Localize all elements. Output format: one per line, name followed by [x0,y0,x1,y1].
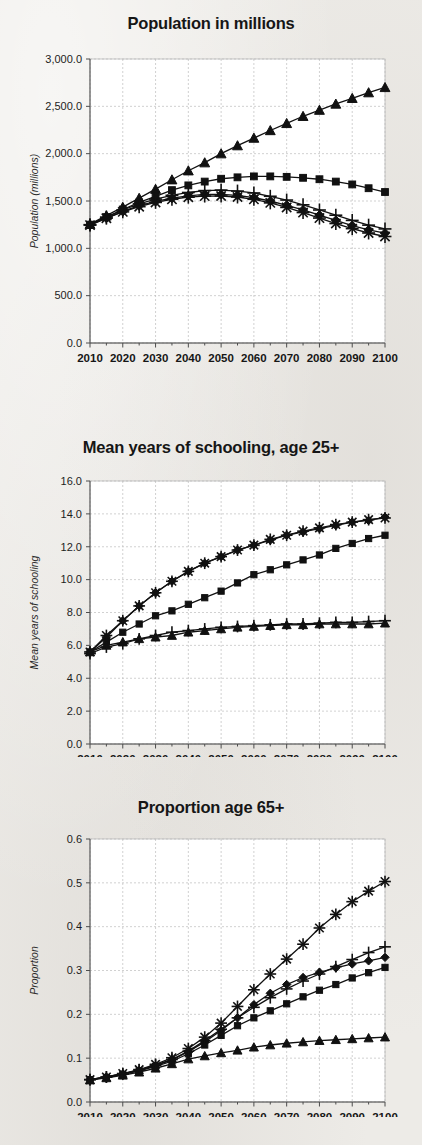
y-tick-label: 8.0 [67,606,82,618]
y-tick-label: 1,500.0 [45,195,82,207]
x-tick-label: 2070 [274,753,300,757]
x-tick-label: 2040 [176,1111,202,1117]
x-tick-label: 2080 [307,753,333,757]
x-tick-label: 2040 [176,753,202,757]
x-tick-label: 2090 [339,1111,365,1117]
y-tick-label: 0.0 [67,738,82,750]
marker-square [218,588,224,594]
marker-square [349,540,355,546]
marker-square [365,185,372,192]
marker-square [283,173,290,180]
plot-area-population: 0.0500.01,000.01,500.02,000.02,500.03,00… [0,33,422,378]
marker-square [120,629,126,635]
y-tick-label: 0.2 [67,1008,82,1020]
x-tick-label: 2010 [77,1111,103,1117]
x-tick-label: 2060 [241,352,267,364]
plot-area-proportion: 0.00.10.20.30.40.50.62010202020302040205… [0,817,422,1117]
marker-square [185,601,191,607]
x-tick-label: 2100 [372,352,398,364]
marker-square [382,189,389,196]
x-tick-label: 2030 [143,352,169,364]
x-tick-label: 2020 [110,352,136,364]
y-tick-label: 0.0 [67,1096,82,1108]
marker-square [316,987,322,993]
y-tick-label: 0.3 [67,964,82,976]
marker-square [136,621,142,627]
marker-square [366,535,372,541]
x-tick-label: 2080 [307,352,333,364]
x-tick-label: 2050 [208,1111,234,1117]
marker-square [284,1001,290,1007]
marker-square [250,173,257,180]
marker-square [234,580,240,586]
y-tick-label: 0.4 [67,920,82,932]
marker-square [218,175,225,182]
y-axis-title: Mean years of schooling [28,555,40,669]
marker-square [333,545,339,551]
marker-square [267,1008,273,1014]
marker-square [366,970,372,976]
x-tick-label: 2050 [208,753,234,757]
chart-svg-proportion: 0.00.10.20.30.40.50.62010202020302040205… [0,817,422,1117]
x-tick-label: 2090 [339,753,365,757]
marker-square [267,173,274,180]
y-tick-label: 10.0 [61,573,82,585]
x-tick-label: 2030 [143,1111,169,1117]
x-tick-label: 2060 [241,1111,267,1117]
y-tick-label: 0.5 [67,877,82,889]
x-tick-label: 2020 [110,1111,136,1117]
marker-square [382,532,388,538]
marker-square [316,176,323,183]
y-tick-label: 2.0 [67,705,82,717]
y-tick-label: 6.0 [67,639,82,651]
y-tick-label: 3,000.0 [45,53,82,65]
marker-square [251,1015,257,1021]
y-tick-label: 1,000.0 [45,242,82,254]
y-tick-label: 2,500.0 [45,100,82,112]
marker-square [349,181,356,188]
x-tick-label: 2030 [143,753,169,757]
marker-square [284,562,290,568]
marker-square [316,552,322,558]
y-tick-label: 0.1 [67,1052,82,1064]
x-tick-label: 2080 [307,1111,333,1117]
marker-square [202,595,208,601]
chart-panel-proportion: Proportion age 65+ 0.00.10.20.30.40.50.6… [0,798,422,1117]
x-tick-label: 2010 [77,352,103,364]
x-tick-label: 2020 [110,753,136,757]
y-tick-label: 0.6 [67,833,82,845]
marker-square [382,964,388,970]
chart-title-proportion: Proportion age 65+ [0,798,422,817]
x-tick-label: 2070 [274,352,300,364]
chart-panel-schooling: Mean years of schooling, age 25+ 0.02.04… [0,438,422,757]
x-tick-label: 2100 [372,1111,398,1117]
y-axis-title: Proportion [28,946,40,995]
marker-square [201,178,208,185]
marker-square [332,178,339,185]
x-tick-label: 2050 [208,352,234,364]
marker-square [169,608,175,614]
marker-square [300,557,306,563]
chart-title-schooling: Mean years of schooling, age 25+ [0,438,422,457]
marker-square [300,174,307,181]
chart-panel-population: Population in millions 0.0500.01,000.01,… [0,14,422,378]
marker-square [333,981,339,987]
x-tick-label: 2070 [274,1111,300,1117]
x-tick-label: 2040 [176,352,202,364]
x-tick-label: 2010 [77,753,103,757]
y-tick-label: 4.0 [67,672,82,684]
marker-square [300,994,306,1000]
chart-svg-schooling: 0.02.04.06.08.010.012.014.016.0201020202… [0,457,422,757]
chart-title-population: Population in millions [0,14,422,33]
marker-square [234,174,241,181]
plot-area-schooling: 0.02.04.06.08.010.012.014.016.0201020202… [0,457,422,757]
y-tick-label: 12.0 [61,541,82,553]
marker-square [349,975,355,981]
chart-svg-population: 0.0500.01,000.01,500.02,000.02,500.03,00… [0,33,422,378]
marker-square [152,613,158,619]
y-tick-label: 16.0 [61,475,82,487]
y-tick-label: 14.0 [61,508,82,520]
y-axis-title: Population (millions) [28,154,40,249]
x-tick-label: 2100 [372,753,398,757]
marker-square [251,572,257,578]
